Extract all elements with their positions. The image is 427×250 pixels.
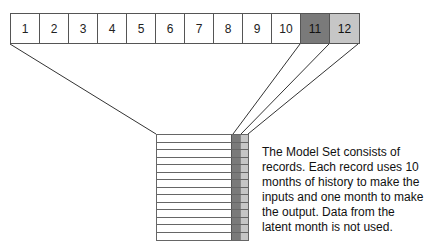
- record-row: [157, 143, 248, 151]
- record-latent: [240, 195, 248, 202]
- record-inputs: [157, 143, 231, 150]
- record-row: [157, 195, 248, 203]
- record-row: [157, 210, 248, 218]
- record-latent: [240, 210, 248, 217]
- record-row: [157, 180, 248, 188]
- record-latent: [240, 165, 248, 172]
- record-row: [157, 165, 248, 173]
- projection-line-output-end: [241, 44, 329, 134]
- record-output: [231, 158, 240, 165]
- record-output: [231, 143, 240, 150]
- projection-line-latent-end: [248, 44, 358, 134]
- projection-line-left: [10, 44, 156, 134]
- record-output: [231, 195, 240, 202]
- record-output: [231, 225, 240, 232]
- record-latent: [240, 135, 248, 142]
- record-row: [157, 225, 248, 233]
- model-set-records: [156, 134, 249, 241]
- record-inputs: [157, 225, 231, 232]
- record-row: [157, 233, 248, 241]
- record-inputs: [157, 173, 231, 180]
- record-output: [231, 210, 240, 217]
- record-output: [231, 135, 240, 142]
- record-inputs: [157, 188, 231, 195]
- record-row: [157, 173, 248, 181]
- record-output: [231, 233, 240, 241]
- record-inputs: [157, 150, 231, 157]
- record-row: [157, 203, 248, 211]
- record-row: [157, 135, 248, 143]
- record-latent: [240, 188, 248, 195]
- record-latent: [240, 143, 248, 150]
- record-inputs: [157, 218, 231, 225]
- record-latent: [240, 180, 248, 187]
- record-row: [157, 150, 248, 158]
- record-row: [157, 218, 248, 226]
- record-output: [231, 165, 240, 172]
- record-latent: [240, 173, 248, 180]
- record-inputs: [157, 203, 231, 210]
- record-output: [231, 218, 240, 225]
- projection-line-inputs-end: [233, 44, 300, 134]
- record-latent: [240, 225, 248, 232]
- record-output: [231, 150, 240, 157]
- record-row: [157, 188, 248, 196]
- record-latent: [240, 150, 248, 157]
- record-inputs: [157, 158, 231, 165]
- record-row: [157, 158, 248, 166]
- record-inputs: [157, 195, 231, 202]
- record-inputs: [157, 180, 231, 187]
- record-latent: [240, 218, 248, 225]
- record-latent: [240, 158, 248, 165]
- record-output: [231, 173, 240, 180]
- record-output: [231, 203, 240, 210]
- record-latent: [240, 233, 248, 241]
- record-output: [231, 180, 240, 187]
- record-latent: [240, 203, 248, 210]
- record-inputs: [157, 165, 231, 172]
- model-set-caption: The Model Set consists of records. Each …: [262, 145, 427, 235]
- record-output: [231, 188, 240, 195]
- record-inputs: [157, 210, 231, 217]
- record-inputs: [157, 135, 231, 142]
- record-inputs: [157, 233, 231, 241]
